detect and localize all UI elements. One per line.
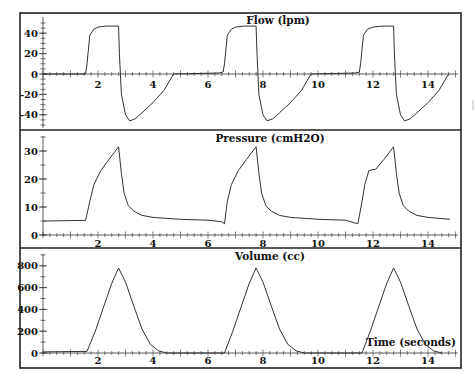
x-tick-label: 6 <box>205 79 212 90</box>
x-tick-label: 12 <box>366 238 380 249</box>
volume-x-axis: 2468101214 <box>43 350 458 367</box>
y-tick-label: 10 <box>24 202 38 213</box>
x-tick-label: 10 <box>311 355 325 366</box>
x-tick-label: 2 <box>95 238 102 249</box>
y-tick-label: 0 <box>31 69 38 80</box>
x-tick-label: 12 <box>366 79 380 90</box>
x-tick-label: 4 <box>150 355 157 366</box>
x-tick-label: 4 <box>150 238 157 249</box>
x-tick-label: 2 <box>95 355 102 366</box>
x-tick-label: 14 <box>421 79 435 90</box>
x-tick-label: 8 <box>260 238 267 249</box>
ventilator-waveform-chart: Flow (lpm) -40-2002040 2468101214 Pressu… <box>0 0 475 385</box>
y-tick-label: 600 <box>17 282 38 293</box>
volume-panel: Volume (cc) Time (seconds) 0200400600800… <box>17 250 458 366</box>
x-tick-label: 6 <box>205 355 212 366</box>
y-tick-label: 20 <box>24 48 38 59</box>
x-tick-label: 4 <box>150 79 157 90</box>
time-axis-label: Time (seconds) <box>366 336 456 348</box>
y-tick-label: 0 <box>31 230 38 241</box>
y-tick-label: -20 <box>20 89 38 100</box>
pressure-y-axis: 0102030 <box>24 136 47 241</box>
x-tick-label: 8 <box>260 79 267 90</box>
x-tick-label: 10 <box>311 79 325 90</box>
y-tick-label: 200 <box>17 326 38 337</box>
y-tick-label: 800 <box>17 260 38 271</box>
x-tick-label: 14 <box>421 355 435 366</box>
x-tick-label: 12 <box>366 355 380 366</box>
pressure-panel: Pressure (cmH2O) 0102030 2468101214 <box>24 132 458 249</box>
pressure-panel-title: Pressure (cmH2O) <box>215 132 324 144</box>
y-tick-label: 400 <box>17 304 38 315</box>
flow-panel-title: Flow (lpm) <box>246 14 310 26</box>
x-tick-label: 8 <box>260 355 267 366</box>
y-tick-label: 40 <box>24 28 38 39</box>
x-tick-label: 2 <box>95 79 102 90</box>
x-tick-label: 6 <box>205 238 212 249</box>
y-tick-label: 0 <box>31 348 38 359</box>
flow-panel: Flow (lpm) -40-2002040 2468101214 <box>20 14 458 128</box>
y-tick-label: 20 <box>24 174 38 185</box>
y-tick-label: -40 <box>20 109 38 120</box>
y-tick-label: 30 <box>24 146 38 157</box>
volume-panel-title: Volume (cc) <box>234 250 305 262</box>
flow-trace <box>43 26 449 121</box>
volume-y-axis: 0200400600800 <box>17 254 47 359</box>
x-tick-label: 10 <box>311 238 325 249</box>
x-tick-label: 14 <box>421 238 435 249</box>
pressure-x-axis: 2468101214 <box>43 232 458 250</box>
pressure-trace <box>43 147 450 224</box>
